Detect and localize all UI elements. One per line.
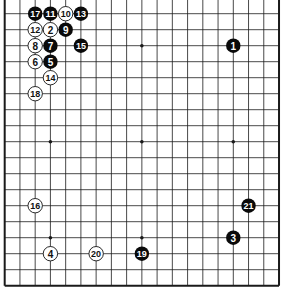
white-stone-move-20: 20 (89, 247, 103, 261)
move-number: 2 (48, 25, 54, 36)
white-stone-move-8: 8 (28, 39, 42, 53)
white-stone-move-14: 14 (43, 71, 57, 85)
move-number: 7 (48, 41, 54, 52)
move-number: 18 (30, 89, 40, 99)
move-number: 20 (91, 249, 101, 259)
star-point (232, 140, 236, 144)
black-stone-move-3: 3 (226, 231, 240, 245)
move-number: 13 (76, 9, 86, 19)
move-number: 19 (137, 249, 147, 259)
move-number: 9 (63, 25, 69, 36)
black-stone-move-5: 5 (43, 55, 57, 69)
move-number: 6 (32, 57, 38, 68)
black-stone-move-15: 15 (74, 39, 88, 53)
white-stone-move-4: 4 (43, 247, 57, 261)
white-stone-move-16: 16 (28, 199, 42, 213)
white-stone-move-12: 12 (28, 23, 42, 37)
move-number: 8 (32, 41, 38, 52)
black-stone-move-19: 19 (135, 247, 149, 261)
white-stone-move-18: 18 (28, 87, 42, 101)
move-number: 4 (48, 249, 54, 260)
star-point (140, 140, 144, 144)
move-number: 1 (231, 41, 237, 52)
star-point (49, 236, 53, 240)
black-stone-move-21: 21 (241, 199, 255, 213)
move-number: 15 (76, 41, 86, 51)
black-stone-move-9: 9 (58, 23, 72, 37)
white-stone-move-2: 2 (43, 23, 57, 37)
star-point (140, 44, 144, 48)
black-stone-move-1: 1 (226, 39, 240, 53)
move-number: 11 (45, 9, 55, 19)
white-stone-move-10: 10 (58, 7, 72, 21)
move-number: 14 (45, 73, 55, 83)
black-stone-move-7: 7 (43, 39, 57, 53)
move-number: 10 (61, 9, 71, 19)
move-number: 3 (231, 233, 237, 244)
go-board: 123456789101112131415161718192021 (0, 0, 284, 293)
star-point (140, 236, 144, 240)
black-stone-move-11: 11 (43, 7, 57, 21)
star-point (49, 140, 53, 144)
move-number: 21 (244, 201, 254, 211)
move-number: 16 (30, 201, 40, 211)
move-number: 5 (48, 57, 54, 68)
white-stone-move-6: 6 (28, 55, 42, 69)
black-stone-move-13: 13 (74, 7, 88, 21)
black-stone-move-17: 17 (28, 7, 42, 21)
move-number: 12 (30, 25, 40, 35)
move-number: 17 (30, 9, 40, 19)
